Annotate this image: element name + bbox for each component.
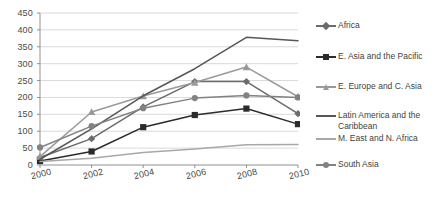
legend-triangle-marker-icon	[323, 84, 329, 90]
x-tick-label: 2004	[133, 167, 156, 181]
y-tick-label: 100	[17, 126, 33, 136]
y-tick-label: 50	[23, 143, 33, 153]
legend-item-label: South Asia	[338, 159, 379, 170]
data-point-marker	[243, 78, 250, 85]
data-point-marker	[140, 124, 146, 130]
y-tick-label: 400	[17, 25, 33, 35]
x-axis-tick-labels: 200020022004200620082010	[0, 169, 300, 199]
line-chart: 050100150200250300350400450 200020022004…	[0, 0, 439, 203]
series-path	[40, 82, 298, 158]
legend-swatch-icon	[316, 81, 336, 92]
series-path	[40, 109, 298, 161]
data-point-marker	[37, 144, 43, 150]
series-path	[40, 37, 298, 159]
legend-item[interactable]: Africa	[316, 20, 437, 31]
legend-line	[316, 138, 336, 140]
series-line	[40, 37, 298, 159]
y-tick-label: 450	[17, 8, 33, 18]
data-point-marker	[243, 63, 250, 70]
data-point-marker	[243, 92, 249, 98]
y-tick-label: 350	[17, 42, 33, 52]
data-point-marker	[89, 148, 95, 154]
data-point-marker	[89, 123, 95, 129]
legend-item[interactable]: E. Europe and C. Asia	[316, 81, 437, 92]
series-path	[40, 144, 298, 161]
data-point-marker	[192, 112, 198, 118]
legend-square-marker-icon	[323, 54, 329, 60]
x-tick-label: 2010	[288, 167, 311, 181]
x-tick-label: 2000	[30, 167, 53, 181]
y-tick-label: 250	[17, 76, 33, 86]
legend-item-label: E. Asia and the Pacific	[338, 51, 423, 62]
legend-item-label: Latin America and the Caribbean	[338, 110, 437, 132]
legend-diamond-marker-icon	[322, 21, 330, 29]
y-tick-label: 150	[17, 109, 33, 119]
legend-swatch-icon	[316, 20, 336, 31]
legend-item-label: Africa	[338, 20, 360, 31]
legend-item[interactable]: E. Asia and the Pacific	[316, 51, 437, 62]
data-point-marker	[88, 135, 95, 142]
legend-swatch-icon	[316, 159, 336, 170]
data-point-marker	[295, 121, 300, 127]
legend-item[interactable]: South Asia	[316, 159, 437, 170]
chart-legend: AfricaE. Asia and the PacificE. Europe a…	[316, 0, 439, 203]
legend-swatch-icon	[316, 110, 336, 121]
legend-item[interactable]: M. East and N. Africa	[316, 133, 437, 144]
data-point-marker	[192, 95, 198, 101]
legend-line	[316, 115, 336, 117]
series-line	[40, 144, 298, 161]
legend-item-label: E. Europe and C. Asia	[338, 81, 422, 92]
y-tick-label: 200	[17, 92, 33, 102]
x-tick-label: 2002	[81, 167, 104, 181]
legend-item[interactable]: Latin America and the Caribbean	[316, 110, 437, 132]
data-point-marker	[140, 105, 146, 111]
legend-item-label: M. East and N. Africa	[338, 133, 418, 144]
legend-circle-marker-icon	[323, 162, 329, 168]
x-tick-label: 2008	[236, 167, 259, 181]
data-point-marker	[243, 105, 249, 111]
y-tick-label: 300	[17, 59, 33, 69]
legend-swatch-icon	[316, 133, 336, 144]
x-tick-label: 2006	[185, 167, 208, 181]
series-line	[36, 78, 300, 161]
legend-swatch-icon	[316, 51, 336, 62]
